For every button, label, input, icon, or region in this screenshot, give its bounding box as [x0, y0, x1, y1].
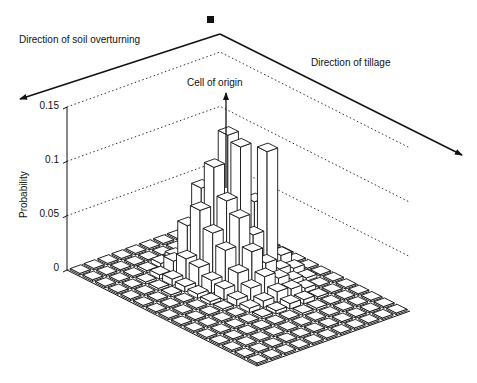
label-soil-overturning: Direction of soil overturning [19, 34, 140, 45]
tick-0.1: 0.1 [29, 154, 59, 165]
tick-0.05: 0.05 [29, 208, 59, 219]
y-axis-label: Probability [18, 171, 29, 218]
origin-marker-square [207, 16, 214, 23]
label-tillage: Direction of tillage [311, 57, 390, 68]
bars [70, 127, 407, 365]
bar-chart-3d [0, 0, 477, 383]
tick-0: 0 [29, 262, 59, 273]
label-cell-of-origin: Cell of origin [187, 77, 243, 88]
tick-0.15: 0.15 [29, 100, 59, 111]
